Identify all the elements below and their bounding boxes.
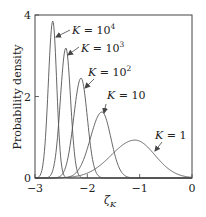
y-axis-title: Probability density — [11, 44, 24, 150]
x-axis-title: ζK — [104, 194, 117, 209]
annotation-arrow — [85, 79, 94, 88]
curve-annotations: K = 104K = 103K = 102K = 10K = 1 — [56, 22, 186, 151]
annotation-label: K = 10 — [106, 89, 145, 102]
annotation-arrow — [155, 142, 162, 151]
x-axis-ticks: −3−2−10 — [27, 174, 196, 195]
svg-text:ζK: ζK — [104, 194, 117, 209]
density-curve-4 — [35, 140, 192, 178]
annotation-label: K = 102 — [87, 64, 131, 79]
annotation-label: K = 104 — [71, 22, 115, 37]
x-tick-label: 0 — [189, 182, 196, 195]
y-tick-label: 2 — [24, 91, 31, 104]
annotation-arrow — [104, 104, 106, 113]
y-tick-label: 0 — [24, 172, 31, 185]
y-axis-ticks: 024 — [24, 9, 39, 185]
annotation-label: K = 103 — [80, 40, 124, 55]
annotation-arrow — [56, 30, 70, 37]
probability-density-chart: −3−2−10 024 Probability density ζK K = 1… — [0, 0, 206, 217]
x-tick-label: −2 — [79, 182, 95, 195]
y-tick-label: 4 — [24, 9, 31, 22]
annotation-label: K = 1 — [154, 129, 186, 142]
annotation-arrow — [68, 47, 79, 55]
x-tick-label: −1 — [132, 182, 148, 195]
